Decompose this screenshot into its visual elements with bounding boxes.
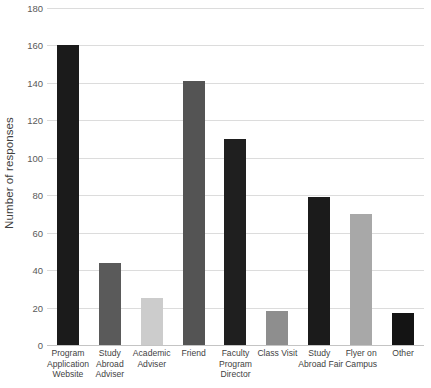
bar-chart: Number of responses 02040608010012014016… [0, 0, 431, 388]
bar-slot [173, 8, 215, 345]
x-tick-label-line: Friend [173, 348, 215, 359]
x-tick-label: Other [382, 348, 424, 359]
x-tick-label-line: Abroad Fair [298, 359, 340, 370]
y-tick-label-60: 60 [9, 227, 43, 238]
x-tick-label-line: Study [89, 348, 131, 359]
bar-slot [47, 8, 89, 345]
y-tick-label-100: 100 [9, 152, 43, 163]
x-tick-label: Friend [173, 348, 215, 359]
bar[interactable] [308, 197, 330, 345]
x-tick-label-line: Academic [131, 348, 173, 359]
x-tick-label: Class Visit [256, 348, 298, 359]
x-tick-label-line: Adviser [131, 359, 173, 370]
y-tick-label-20: 20 [9, 302, 43, 313]
x-tick-label: Flyer onCampus [340, 348, 382, 369]
x-tick-label-line: Website [47, 369, 89, 380]
bar[interactable] [266, 311, 288, 345]
x-tick-label-line: Flyer on [340, 348, 382, 359]
y-tick-label-80: 80 [9, 190, 43, 201]
bar-slot [382, 8, 424, 345]
x-tick-label: StudyAbroadAdviser [89, 348, 131, 380]
x-tick-label-line: Program [215, 359, 257, 370]
x-tick-label-line: Abroad [89, 359, 131, 370]
plot-area [47, 8, 424, 345]
bar-slot [131, 8, 173, 345]
x-axis-tick-labels: ProgramApplicationWebsiteStudyAbroadAdvi… [47, 348, 424, 388]
x-tick-label: FacultyProgramDirector [215, 348, 257, 380]
bar-slot [298, 8, 340, 345]
x-tick-label: StudyAbroad Fair [298, 348, 340, 369]
x-tick-label-line: Other [382, 348, 424, 359]
bar[interactable] [99, 263, 121, 345]
x-tick-label-line: Program [47, 348, 89, 359]
y-axis-tick-labels: 020406080100120140160180 [0, 8, 43, 345]
x-tick-label: AcademicAdviser [131, 348, 173, 369]
bar[interactable] [141, 298, 163, 345]
x-tick-label-line: Class Visit [256, 348, 298, 359]
x-tick-label-line: Study [298, 348, 340, 359]
bar-slot [89, 8, 131, 345]
y-tick-label-140: 140 [9, 77, 43, 88]
x-tick-label-line: Application [47, 359, 89, 370]
bar-slot [215, 8, 257, 345]
bar[interactable] [57, 45, 79, 345]
x-tick-label-line: Director [215, 369, 257, 380]
y-tick-label-160: 160 [9, 40, 43, 51]
y-tick-label-0: 0 [9, 340, 43, 351]
x-tick-label: ProgramApplicationWebsite [47, 348, 89, 380]
y-tick-label-40: 40 [9, 265, 43, 276]
bar[interactable] [183, 81, 205, 345]
bar[interactable] [224, 139, 246, 345]
bar-slot [256, 8, 298, 345]
gridline-0 [47, 345, 424, 346]
y-tick-label-180: 180 [9, 3, 43, 14]
x-tick-label-line: Adviser [89, 369, 131, 380]
x-tick-label-line: Campus [340, 359, 382, 370]
x-tick-label-line: Faculty [215, 348, 257, 359]
bar[interactable] [350, 214, 372, 345]
bar[interactable] [392, 313, 414, 345]
bar-slot [340, 8, 382, 345]
y-tick-label-120: 120 [9, 115, 43, 126]
